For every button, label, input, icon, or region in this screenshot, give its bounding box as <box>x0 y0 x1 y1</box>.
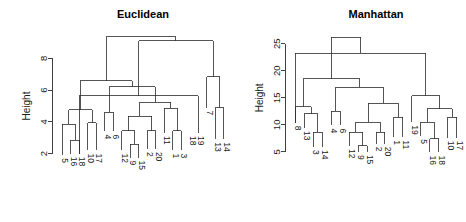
leaf-label: 15 <box>137 161 147 171</box>
y-axis-euclidean: 2468 <box>38 56 52 157</box>
leaf-label: 9 <box>356 155 366 160</box>
y-tick-label: 25 <box>271 39 282 50</box>
leaf-label: 18 <box>188 136 198 146</box>
leaf-label: 16 <box>428 155 438 165</box>
leaf-label: 2 <box>145 152 155 157</box>
y-axis-title: Height <box>254 83 265 112</box>
panel-title: Manhattan <box>349 8 404 20</box>
dendrogram-plot-manhattan: 813314461291522011119516181017510152025H… <box>233 0 466 222</box>
y-tick-label: 15 <box>271 93 282 104</box>
y-axis-manhattan: 510152025 <box>271 39 285 155</box>
leaf-label: 11 <box>401 140 411 149</box>
y-tick-label: 20 <box>271 66 282 77</box>
y-tick-label: 6 <box>38 88 49 93</box>
leaf-label: 4 <box>329 128 339 133</box>
leaf-label: 1 <box>171 153 181 158</box>
leaf-label: 20 <box>383 147 393 157</box>
leaf-label: 19 <box>410 125 420 135</box>
leaf-label: 18 <box>437 155 447 165</box>
y-tick-label: 4 <box>38 119 49 124</box>
leaf-label: 14 <box>320 150 330 160</box>
leaf-label: 10 <box>86 153 96 163</box>
leaf-label: 2 <box>374 147 384 152</box>
panel-euclidean: 516181017461291522011131819713142468Heig… <box>0 0 233 222</box>
leaf-label: 14 <box>222 142 232 152</box>
leaf-label: 8 <box>293 126 303 131</box>
leaf-label: 10 <box>446 141 456 151</box>
leaf-label: 9 <box>128 161 138 166</box>
y-tick-label: 10 <box>271 120 282 131</box>
dendrogram-figure: 516181017461291522011131819713142468Heig… <box>0 0 466 222</box>
leaf-label: 13 <box>302 131 312 141</box>
panel-title: Euclidean <box>117 8 169 20</box>
leaf-label: 15 <box>365 155 375 165</box>
leaf-label: 1 <box>392 140 402 145</box>
leaf-label: 18 <box>77 157 87 167</box>
y-tick-label: 5 <box>271 149 282 154</box>
leaf-label: 17 <box>94 153 104 163</box>
leaf-label: 7 <box>205 111 215 116</box>
leaf-label: 17 <box>455 141 465 151</box>
leaf-label: 6 <box>338 128 348 133</box>
leaf-label: 3 <box>179 153 189 158</box>
leaf-label: 11 <box>162 136 172 145</box>
leaf-label: 4 <box>103 134 113 139</box>
leaf-label: 19 <box>196 136 206 146</box>
dendrogram-links-manhattan <box>295 37 456 152</box>
leaf-label: 5 <box>419 139 429 144</box>
leaf-label: 16 <box>69 157 79 167</box>
panel-manhattan: 813314461291522011119516181017510152025H… <box>233 0 466 222</box>
y-tick-label: 2 <box>38 151 49 156</box>
dendrogram-plot-euclidean: 516181017461291522011131819713142468Heig… <box>0 0 233 222</box>
leaf-label: 6 <box>111 134 121 139</box>
leaf-label: 13 <box>213 142 223 152</box>
y-axis-title: Height <box>21 91 32 120</box>
leaf-label: 5 <box>60 158 70 163</box>
dendrogram-leaf-labels-euclidean: 51618101746129152201113181971314 <box>60 111 232 171</box>
y-tick-label: 8 <box>38 56 49 61</box>
leaf-label: 3 <box>311 150 321 155</box>
leaf-label: 20 <box>154 152 164 162</box>
leaf-label: 12 <box>120 153 130 163</box>
leaf-label: 12 <box>347 149 357 159</box>
